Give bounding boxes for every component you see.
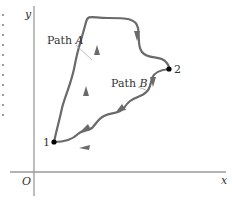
path-a-arrow-1 [83, 86, 89, 96]
path-a-label: Path A [47, 34, 83, 47]
y-axis-label: y [24, 8, 32, 21]
origin-label: O [22, 175, 31, 188]
path-b-arrow-4 [79, 145, 90, 150]
point-1 [51, 139, 56, 144]
path-b-arrow-3 [81, 124, 91, 131]
path-b-label: Path B [111, 77, 148, 90]
point-2-label: 2 [174, 63, 181, 76]
point-1-label: 1 [43, 136, 50, 149]
point-2 [166, 66, 171, 71]
path-b-arrow-2 [116, 104, 126, 112]
path-a-arrow-2 [94, 45, 100, 55]
x-axis-label: x [221, 174, 228, 187]
path-diagram: y O x Path A Path B 1 2 [0, 0, 232, 208]
